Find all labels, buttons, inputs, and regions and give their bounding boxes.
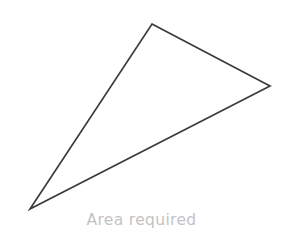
diagram-canvas: Area required — [0, 0, 283, 247]
triangle-outline — [30, 24, 270, 209]
caption-label: Area required — [0, 211, 283, 229]
shape-layer — [0, 0, 283, 247]
